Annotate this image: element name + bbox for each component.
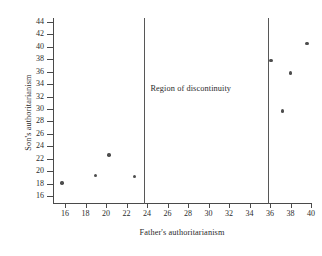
x-tick-label: 16: [54, 209, 76, 218]
x-tick-mark: [250, 203, 251, 208]
x-tick-mark: [127, 203, 128, 208]
x-tick-label: 40: [300, 209, 322, 218]
discontinuity-boundary-line: [144, 18, 145, 204]
y-axis-title: Son's authoritarianism: [24, 38, 33, 188]
y-tick-label: 44: [22, 18, 44, 26]
y-tick-mark: [47, 159, 53, 160]
x-tick-mark: [188, 203, 189, 208]
region-of-discontinuity-label: Region of discontinuity: [150, 84, 231, 94]
y-tick-mark: [47, 97, 53, 98]
y-tick-mark: [47, 121, 53, 122]
y-tick-mark: [47, 72, 53, 73]
y-axis-line: [53, 18, 54, 204]
x-tick-mark: [65, 203, 66, 208]
x-tick-label: 32: [218, 209, 240, 218]
x-tick-label: 20: [95, 209, 117, 218]
x-tick-mark: [229, 203, 230, 208]
x-tick-mark: [270, 203, 271, 208]
x-axis-title: Father's authoritarianism: [53, 228, 311, 237]
x-tick-label: 22: [116, 209, 138, 218]
data-point: [305, 42, 308, 45]
y-tick-mark: [47, 196, 53, 197]
x-tick-label: 26: [157, 209, 179, 218]
x-tick-mark: [311, 203, 312, 208]
x-tick-label: 34: [239, 209, 261, 218]
data-point: [289, 71, 292, 74]
x-tick-mark: [86, 203, 87, 208]
x-tick-mark: [147, 203, 148, 208]
scatter-plot-figure: 161820222426283032343638404244 161820222…: [0, 0, 322, 256]
x-tick-label: 30: [198, 209, 220, 218]
x-tick-mark: [106, 203, 107, 208]
data-point: [269, 59, 272, 62]
data-point: [107, 153, 110, 156]
y-tick-mark: [47, 146, 53, 147]
y-tick-mark: [47, 34, 53, 35]
y-tick-mark: [47, 84, 53, 85]
x-tick-label: 18: [75, 209, 97, 218]
data-point: [133, 175, 136, 178]
x-tick-label: 38: [280, 209, 302, 218]
x-tick-label: 24: [136, 209, 158, 218]
x-tick-mark: [209, 203, 210, 208]
y-tick-mark: [47, 171, 53, 172]
data-point: [94, 174, 97, 177]
y-tick-mark: [47, 22, 53, 23]
y-tick-mark: [47, 109, 53, 110]
x-axis-line: [53, 203, 312, 204]
x-tick-mark: [291, 203, 292, 208]
y-tick-mark: [47, 184, 53, 185]
x-tick-label: 36: [259, 209, 281, 218]
y-tick-mark: [47, 134, 53, 135]
y-tick-mark: [47, 47, 53, 48]
data-point: [60, 181, 63, 184]
discontinuity-boundary-line: [268, 18, 269, 204]
y-tick-label: 16: [22, 192, 44, 200]
x-tick-mark: [168, 203, 169, 208]
x-tick-label: 28: [177, 209, 199, 218]
y-tick-mark: [47, 59, 53, 60]
data-point: [281, 109, 284, 112]
